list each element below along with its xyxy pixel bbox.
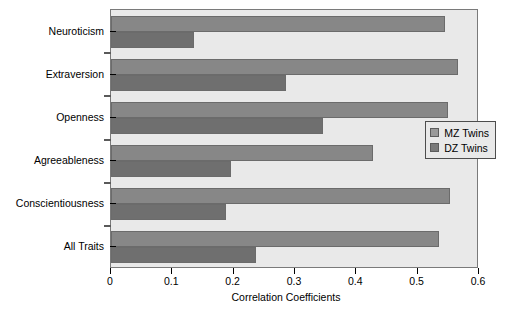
y-axis-label-openness: Openness [0,111,104,123]
bar-mz-twins-all-traits [111,231,439,247]
x-tick-label: 0.5 [409,275,424,287]
y-axis-label-all-traits: All Traits [0,240,104,252]
y-tick-minor [104,182,111,184]
y-axis-label-extraversion: Extraversion [0,68,104,80]
legend-swatch-dz-icon [430,143,439,152]
y-tick-major [110,74,116,75]
y-tick-major [110,31,116,32]
plot-area [110,9,478,268]
bar-chart: NeuroticismExtraversionOpennessAgreeable… [0,0,506,312]
y-tick-major [110,203,116,204]
bar-mz-twins-extraversion [111,59,458,75]
x-tick-mark [233,268,234,274]
x-tick-label: 0.6 [471,275,486,287]
y-tick-minor [104,139,111,141]
bar-dz-twins-openness [111,118,323,134]
x-tick-label: 0.1 [164,275,179,287]
bar-dz-twins-all-traits [111,247,256,263]
legend-label-mz: MZ Twins [444,127,489,139]
y-tick-minor [104,95,111,97]
y-axis-label-agreeableness: Agreeableness [0,154,104,166]
x-axis-title-text: Correlation Coefficients [232,291,341,303]
legend-swatch-mz-icon [430,128,439,137]
bar-mz-twins-agreeableness [111,145,373,161]
legend-item-dz[interactable]: DZ Twins [430,140,489,155]
legend-label-dz: DZ Twins [444,142,488,154]
bar-dz-twins-agreeableness [111,161,231,177]
y-axis-label-conscientiousness: Conscientiousness [0,197,104,209]
x-tick-label: 0 [107,275,113,287]
x-tick-label: 0.4 [348,275,363,287]
y-axis-label-neuroticism: Neuroticism [0,25,104,37]
bar-dz-twins-conscientiousness [111,204,226,220]
x-tick-mark [417,268,418,274]
x-tick-mark [110,268,111,274]
x-tick-label: 0.3 [287,275,302,287]
bar-mz-twins-conscientiousness [111,188,450,204]
bar-dz-twins-extraversion [111,75,286,91]
x-tick-label: 0.2 [225,275,240,287]
y-tick-major [110,160,116,161]
y-tick-minor [104,225,111,227]
x-tick-mark [171,268,172,274]
x-tick-mark [294,268,295,274]
x-axis-title: Correlation Coefficients [0,291,506,303]
legend: MZ Twins DZ Twins [425,121,496,159]
y-tick-major [110,246,116,247]
y-tick-minor [104,52,111,54]
bar-mz-twins-neuroticism [111,16,445,32]
bar-dz-twins-neuroticism [111,32,194,48]
legend-item-mz[interactable]: MZ Twins [430,125,489,140]
bars-layer [111,10,477,267]
bar-mz-twins-openness [111,102,448,118]
x-tick-mark [478,268,479,274]
x-tick-mark [355,268,356,274]
y-tick-major [110,117,116,118]
